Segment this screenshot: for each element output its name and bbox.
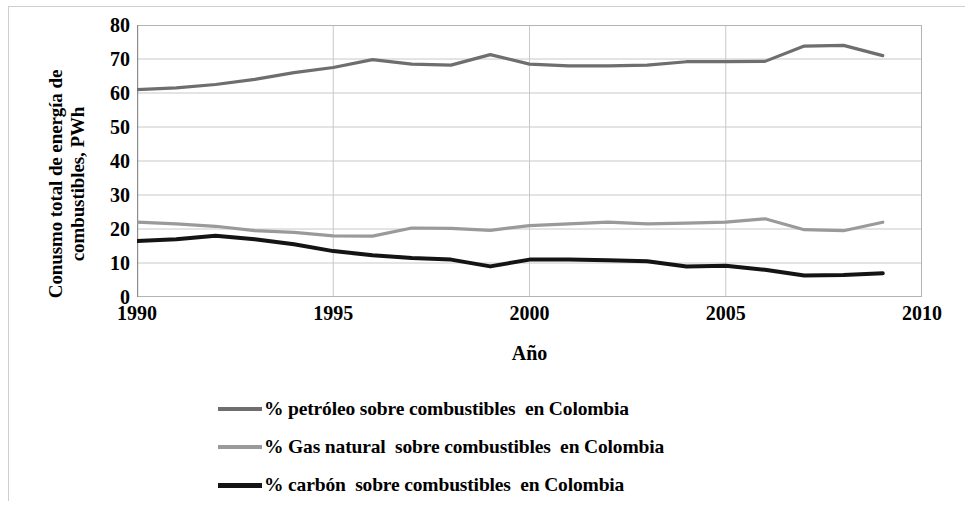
- y-tick-label: 50: [88, 117, 130, 137]
- legend-line-icon: [218, 445, 262, 449]
- legend-item-label: % carbón sobre combustibles en Colombia: [264, 474, 624, 496]
- x-axis-tick-labels: 19901995200020052010: [0, 303, 965, 333]
- y-tick-label: 30: [88, 185, 130, 205]
- legend-item-oil[interactable]: % petróleo sobre combustibles en Colombi…: [218, 390, 918, 428]
- legend-item-coal[interactable]: % carbón sobre combustibles en Colombia: [218, 466, 918, 504]
- legend-item-label: % petróleo sobre combustibles en Colombi…: [264, 398, 629, 420]
- legend-line-icon: [218, 483, 262, 488]
- plot-area: [137, 25, 922, 297]
- y-tick-label: 10: [88, 253, 130, 273]
- chart-legend: % petróleo sobre combustibles en Colombi…: [218, 390, 918, 504]
- plot-svg: [137, 25, 922, 297]
- y-tick-label: 60: [88, 83, 130, 103]
- y-tick-label: 80: [88, 15, 130, 35]
- chart-figure: Conusmo total de energía de combustibles…: [0, 0, 965, 507]
- y-tick-label: 20: [88, 219, 130, 239]
- x-tick-label: 1990: [92, 303, 182, 323]
- y-axis-title-line-2: combustibles, PWh: [67, 107, 88, 262]
- y-axis-tick-labels: 01020304050607080: [88, 0, 130, 320]
- legend-item-gas[interactable]: % Gas natural sobre combustibles en Colo…: [218, 428, 918, 466]
- series-line-oil: [137, 45, 883, 89]
- x-tick-label: 2000: [485, 303, 575, 323]
- x-axis-title: Año: [137, 342, 922, 365]
- figure-border-top: [8, 6, 965, 7]
- y-tick-label: 70: [88, 49, 130, 69]
- y-tick-label: 40: [88, 151, 130, 171]
- figure-border-left: [8, 6, 9, 501]
- legend-line-icon: [218, 407, 262, 411]
- legend-item-label: % Gas natural sobre combustibles en Colo…: [264, 436, 664, 458]
- y-axis-title-line-1: Conusmo total de energía de: [45, 70, 66, 298]
- x-tick-label: 2005: [681, 303, 771, 323]
- series-line-coal: [137, 236, 883, 276]
- series-line-gas: [137, 219, 883, 236]
- x-tick-label: 1995: [288, 303, 378, 323]
- x-tick-label: 2010: [877, 303, 965, 323]
